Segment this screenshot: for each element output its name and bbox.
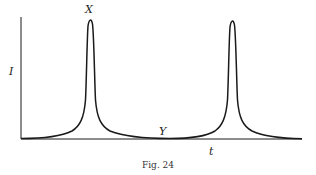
- y-axis-label: I: [9, 66, 13, 77]
- trough-label-y: Y: [159, 126, 166, 137]
- peak-label-x: X: [85, 4, 93, 15]
- figure-caption: Fig. 24: [142, 161, 174, 170]
- intensity-curve: [21, 20, 302, 139]
- figure: X I Y t Fig. 24: [0, 0, 316, 175]
- x-axis-label: t: [209, 146, 213, 157]
- plot-canvas: [0, 0, 316, 175]
